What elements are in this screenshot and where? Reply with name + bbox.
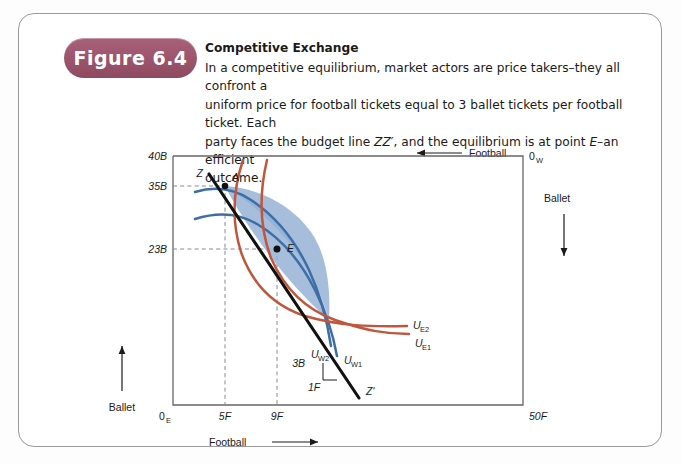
point-A-marker [222,183,229,190]
curve-label-U-W2-sub: W2 [318,354,329,363]
origin-east-base: 0 [159,410,165,422]
y-tick-35B: 35B [148,180,167,192]
figure-page: Figure 6.4 Competitive Exchange In a com… [0,0,681,464]
bottom-football-label: Football [209,436,246,448]
right-ballet-label: Ballet [544,192,570,204]
top-football-caption: Football [417,147,506,159]
x-tick-50F: 50F [529,410,548,422]
curve-label-U-E1-sub: E1 [422,343,431,352]
slope-rise-label: 3B [292,357,305,369]
point-E-marker [274,246,281,253]
origin-west: 0 W [529,150,543,165]
point-E-label: E [287,242,295,254]
origin-west-sub: W [536,156,543,165]
slope-triangle [323,363,337,380]
curve-label-U-W1-sub: W1 [351,360,362,369]
left-ballet-caption: Ballet [109,346,135,413]
top-football-label: Football [469,147,506,159]
origin-west-base: 0 [529,150,535,162]
figure-card: Figure 6.4 Competitive Exchange In a com… [18,13,662,447]
point-A-label: A [231,171,239,183]
edgeworth-box-chart: Football [19,14,663,448]
y-tick-40B: 40B [148,150,167,162]
down-arrow-icon [561,248,568,256]
x-tick-9F: 9F [271,410,284,422]
slope-run-label: 1F [308,381,321,393]
left-ballet-label: Ballet [109,401,135,413]
origin-east-sub: E [166,416,171,425]
right-ballet-caption: Ballet [544,192,570,256]
curve-label-U-E2: U E2 [413,319,429,334]
y-tick-23B: 23B [147,243,167,255]
bottom-football-caption: Football [209,436,318,448]
curve-label-U-E1: U E1 [415,337,431,352]
curve-label-U-E2-sub: E2 [420,325,429,334]
right-arrow-icon [310,439,318,446]
point-Zprime-label: Z′ [365,385,375,397]
origin-east: 0 E [159,410,171,425]
up-arrow-icon [119,346,126,354]
curve-label-U-W1: U W1 [344,354,362,369]
point-Z-label: Z [196,167,204,179]
x-tick-5F: 5F [219,410,232,422]
